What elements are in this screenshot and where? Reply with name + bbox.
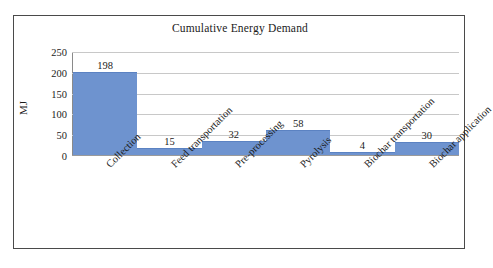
chart-title: Cumulative Energy Demand — [14, 22, 466, 34]
y-tick-label: 0 — [62, 151, 67, 162]
x-category-slot: Biochar transportation — [330, 158, 395, 248]
x-category-slot: Pyrolysis — [266, 158, 331, 248]
y-tick-label: 100 — [51, 109, 67, 120]
x-category-slot: Feed transportation — [137, 158, 202, 248]
x-axis-line — [72, 155, 459, 156]
x-category-slot: Pre-processing — [201, 158, 266, 248]
y-tick-label: 250 — [51, 47, 67, 58]
y-axis-title: MJ — [17, 88, 29, 128]
bar-value-label: 198 — [73, 60, 137, 71]
x-category-slot: Collection — [72, 158, 137, 248]
x-category-labels: CollectionFeed transportationPre-process… — [72, 158, 459, 248]
chart-figure: Cumulative Energy Demand MJ 050100150200… — [13, 15, 465, 249]
y-tick-label: 50 — [57, 130, 68, 141]
x-category-slot: Biochar application — [395, 158, 460, 248]
y-tick-label: 150 — [51, 88, 67, 99]
y-tick-label: 200 — [51, 67, 67, 78]
